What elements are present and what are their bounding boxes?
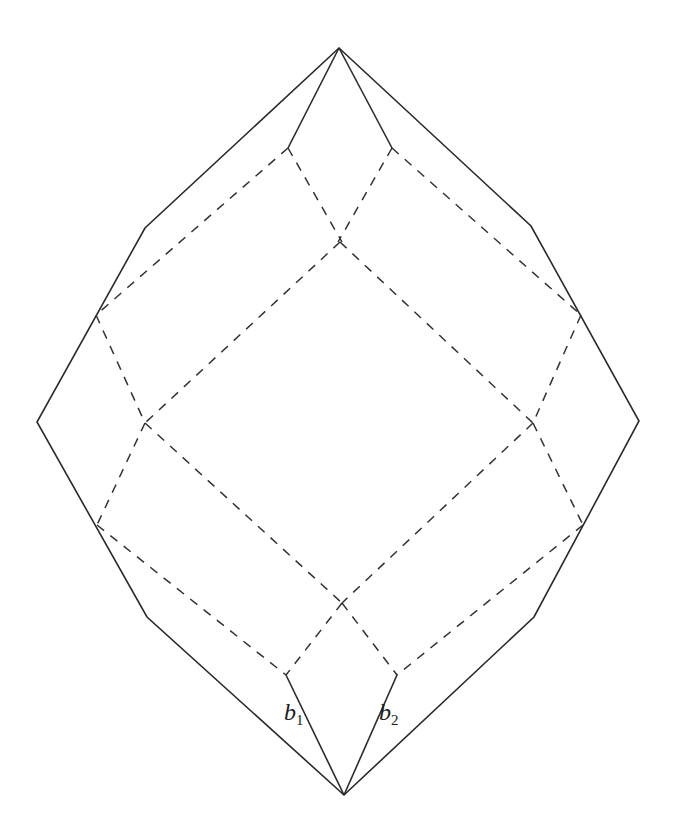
- dashed-edge: [145, 423, 342, 603]
- dashed-edge: [96, 148, 288, 315]
- dashed-edge: [342, 423, 533, 603]
- solid-edge: [339, 48, 392, 148]
- dashed-edge: [145, 242, 340, 423]
- dashed-edge: [97, 423, 145, 525]
- dashed-edge: [397, 525, 583, 675]
- label-b2-subscript: 2: [391, 712, 399, 728]
- dashed-lattice: [96, 148, 583, 675]
- label-b2: b2: [379, 700, 399, 728]
- solid-edge: [344, 675, 397, 795]
- diagram-canvas: [0, 0, 674, 837]
- label-b1-base: b: [284, 699, 296, 725]
- inner-solid-edges: [286, 48, 397, 795]
- dashed-edge: [286, 603, 342, 675]
- dashed-edge: [392, 148, 581, 315]
- dashed-edge: [97, 525, 286, 675]
- dashed-edge: [96, 315, 145, 423]
- dashed-edge: [288, 148, 342, 242]
- solid-edge: [286, 675, 344, 795]
- dashed-edge: [338, 148, 392, 242]
- dashed-edge: [533, 315, 581, 423]
- dashed-edge: [533, 423, 583, 525]
- solid-edge: [288, 48, 339, 148]
- dashed-edge: [342, 603, 397, 675]
- label-b1: b1: [284, 700, 304, 728]
- outer-polygon: [37, 48, 639, 795]
- dashed-edge: [340, 242, 533, 423]
- label-b2-base: b: [379, 699, 391, 725]
- outer-outline: [37, 48, 639, 795]
- label-b1-subscript: 1: [296, 712, 304, 728]
